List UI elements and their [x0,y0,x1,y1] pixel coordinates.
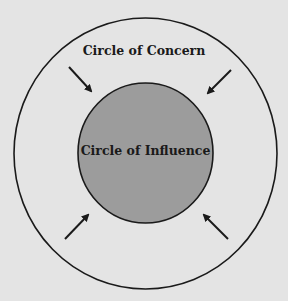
arrow-top-right-icon [208,70,231,93]
arrow-bottom-left-icon [65,215,88,239]
circle-of-influence-label: Circle of Influence [81,143,211,158]
concern-influence-diagram: Circle of Concern Circle of Influence [0,0,288,301]
arrow-top-left-icon [69,67,91,91]
circle-of-concern-label: Circle of Concern [83,43,206,58]
arrow-bottom-right-icon [204,215,228,239]
